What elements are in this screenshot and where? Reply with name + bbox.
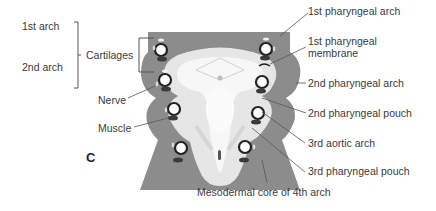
label-2nd-pharyngeal-arch: 2nd pharyngeal arch bbox=[308, 77, 404, 89]
label-1st-arch: 1st arch bbox=[22, 20, 59, 32]
label-2nd-pharyngeal-pouch: 2nd pharyngeal pouch bbox=[308, 107, 412, 119]
label-muscle: Muscle bbox=[98, 122, 131, 134]
label-1st-pharyngeal-arch: 1st pharyngeal arch bbox=[308, 5, 400, 17]
arch-bracket bbox=[74, 22, 81, 88]
label-nerve: Nerve bbox=[98, 94, 126, 106]
panel-label: C bbox=[86, 150, 95, 165]
label-cartilages: Cartilages bbox=[86, 49, 133, 61]
label-mesodermal-core: Mesodermal core of 4th arch bbox=[197, 186, 331, 198]
label-3rd-pharyngeal-pouch: 3rd pharyngeal pouch bbox=[308, 165, 410, 177]
label-1st-pharyngeal-membrane-line1: 1st pharyngeal bbox=[308, 35, 377, 47]
label-2nd-arch: 2nd arch bbox=[22, 61, 63, 73]
label-1st-pharyngeal-membrane-line2: membrane bbox=[308, 47, 358, 59]
pharyngeal-arch-diagram bbox=[0, 0, 436, 211]
label-3rd-aortic-arch: 3rd aortic arch bbox=[308, 137, 375, 149]
